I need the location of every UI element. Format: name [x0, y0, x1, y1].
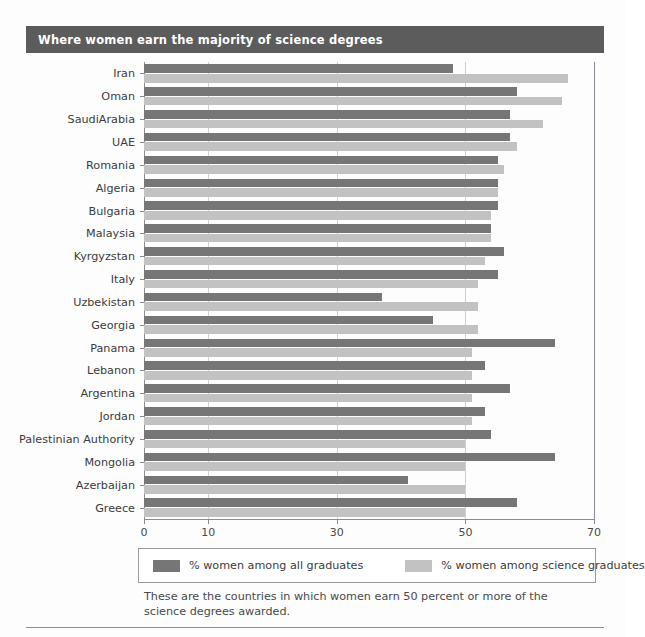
bar-all-graduates — [144, 201, 498, 210]
x-tick-label-10: 10 — [201, 526, 215, 539]
bar-science-graduates — [144, 417, 472, 426]
bar-science-graduates — [144, 97, 562, 106]
bar-science-graduates — [144, 211, 491, 220]
bar-all-graduates — [144, 64, 453, 73]
legend-entry-science-graduates: % women among science graduates — [405, 559, 644, 572]
bar-all-graduates — [144, 247, 504, 256]
category-label: SaudiArabia — [68, 113, 135, 126]
bar-science-graduates — [144, 440, 465, 449]
bar-all-graduates — [144, 361, 485, 370]
bar-all-graduates — [144, 498, 517, 507]
bar-science-graduates — [144, 508, 465, 517]
bar-all-graduates — [144, 453, 555, 462]
legend-swatch-science-graduates — [405, 560, 432, 572]
bar-row: Palestinian Authority — [144, 428, 594, 451]
category-label: Azerbaijan — [76, 478, 135, 491]
bar-science-graduates — [144, 120, 543, 129]
bar-row: Malaysia — [144, 222, 594, 245]
bar-row: Jordan — [144, 405, 594, 428]
x-axis-line — [144, 519, 594, 520]
category-label: Italy — [111, 273, 135, 286]
x-tick-label-0: 0 — [141, 526, 148, 539]
bar-row: Bulgaria — [144, 199, 594, 222]
bar-row: SaudiArabia — [144, 108, 594, 131]
bar-science-graduates — [144, 188, 498, 197]
bar-all-graduates — [144, 87, 517, 96]
bar-science-graduates — [144, 257, 485, 266]
x-tick-0 — [144, 519, 145, 524]
legend-swatch-all-graduates — [153, 560, 180, 572]
category-label: Greece — [95, 501, 135, 514]
x-tick-10 — [208, 519, 209, 524]
bar-row: UAE — [144, 131, 594, 154]
bar-row: Kyrgyzstan — [144, 245, 594, 268]
bar-all-graduates — [144, 339, 555, 348]
bar-row: Oman — [144, 85, 594, 108]
bar-row: Argentina — [144, 382, 594, 405]
bar-science-graduates — [144, 371, 472, 380]
bar-all-graduates — [144, 156, 498, 165]
bar-all-graduates — [144, 133, 510, 142]
legend-label-science-graduates: % women among science graduates — [441, 559, 644, 572]
bar-row: Georgia — [144, 313, 594, 336]
category-label: Algeria — [96, 181, 135, 194]
bar-row: Azerbaijan — [144, 473, 594, 496]
category-label: Lebanon — [87, 364, 135, 377]
bar-science-graduates — [144, 462, 465, 471]
category-label: Palestinian Authority — [19, 433, 135, 446]
bar-science-graduates — [144, 165, 504, 174]
bar-all-graduates — [144, 430, 491, 439]
category-label: Oman — [101, 90, 135, 103]
bar-all-graduates — [144, 316, 433, 325]
category-label: Kyrgyzstan — [74, 250, 135, 263]
bar-all-graduates — [144, 384, 510, 393]
bar-row: Lebanon — [144, 359, 594, 382]
category-label: UAE — [112, 135, 135, 148]
chart-title: Where women earn the majority of science… — [26, 33, 383, 47]
bar-all-graduates — [144, 179, 498, 188]
bar-science-graduates — [144, 348, 472, 357]
x-tick-70 — [594, 519, 595, 524]
bar-all-graduates — [144, 293, 382, 302]
bar-row: Romania — [144, 153, 594, 176]
chart-title-banner: Where women earn the majority of science… — [26, 26, 604, 53]
category-label: Iran — [113, 67, 135, 80]
category-label: Uzbekistan — [73, 295, 135, 308]
category-label: Bulgaria — [89, 204, 135, 217]
x-tick-label-50: 50 — [458, 526, 472, 539]
legend-label-all-graduates: % women among all graduates — [189, 559, 363, 572]
x-tick-label-30: 30 — [330, 526, 344, 539]
bar-row: Mongolia — [144, 450, 594, 473]
bar-science-graduates — [144, 325, 478, 334]
bar-science-graduates — [144, 394, 472, 403]
bar-all-graduates — [144, 407, 485, 416]
gridline-70 — [594, 62, 595, 519]
category-label: Argentina — [80, 387, 135, 400]
bar-row: Iran — [144, 62, 594, 85]
bar-row: Algeria — [144, 176, 594, 199]
bar-row: Uzbekistan — [144, 291, 594, 314]
plot-area: IranOmanSaudiArabiaUAERomaniaAlgeriaBulg… — [144, 62, 594, 519]
bar-science-graduates — [144, 234, 491, 243]
category-label: Panama — [90, 341, 135, 354]
chart-legend: % women among all graduates % women amon… — [138, 548, 596, 583]
bar-science-graduates — [144, 74, 568, 83]
chart-caption: These are the countries in which women e… — [144, 589, 574, 619]
x-tick-30 — [337, 519, 338, 524]
category-label: Georgia — [91, 318, 135, 331]
bottom-divider — [26, 627, 604, 628]
x-tick-50 — [465, 519, 466, 524]
bar-all-graduates — [144, 476, 408, 485]
category-label: Malaysia — [86, 227, 135, 240]
bar-science-graduates — [144, 485, 465, 494]
category-label: Mongolia — [84, 455, 135, 468]
bar-science-graduates — [144, 142, 517, 151]
bar-all-graduates — [144, 224, 491, 233]
category-label: Jordan — [99, 410, 135, 423]
bar-row: Panama — [144, 336, 594, 359]
bar-all-graduates — [144, 110, 510, 119]
x-tick-label-70: 70 — [587, 526, 601, 539]
bar-all-graduates — [144, 270, 498, 279]
bar-science-graduates — [144, 280, 478, 289]
